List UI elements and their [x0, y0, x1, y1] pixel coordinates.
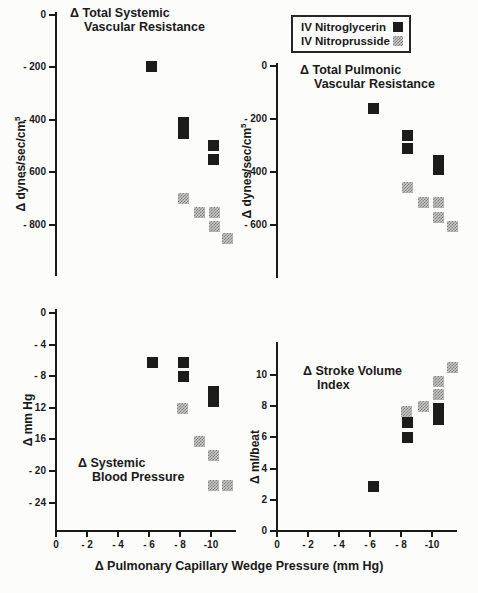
- data-point-nitroprusside: [222, 480, 233, 491]
- title-line: Δ Systemic: [78, 457, 184, 471]
- y-axis-tick: [270, 499, 276, 501]
- y-axis-label-mmhg: Δ mm Hg: [21, 394, 35, 447]
- x-axis-tick: [307, 532, 309, 537]
- x-axis-tick: [86, 532, 88, 537]
- title-line: Δ Total Systemic: [70, 7, 205, 21]
- y-tick-label: - 800: [7, 219, 46, 231]
- y-tick-label: 0: [7, 9, 46, 21]
- y-axis-tick: [49, 171, 55, 173]
- data-point-nitroprusside: [433, 197, 444, 208]
- x-axis-tick: [179, 532, 181, 537]
- x-tick-label: - 6: [134, 539, 164, 551]
- data-point-nitroprusside: [402, 182, 413, 193]
- data-point-nitroglycerin: [402, 130, 413, 141]
- y-axis-tick: [270, 65, 276, 67]
- x-axis: [276, 530, 457, 532]
- y-axis-tick: [270, 405, 276, 407]
- data-point-nitroglycerin: [147, 357, 158, 368]
- title-line: Δ Stroke Volume: [303, 365, 402, 379]
- x-tick-label: - 8: [165, 539, 195, 551]
- data-point-nitroprusside: [447, 221, 458, 232]
- data-point-nitroprusside: [222, 233, 233, 244]
- data-point-nitroglycerin: [208, 154, 219, 165]
- x-tick-label: -10: [417, 539, 447, 551]
- y-axis-tick: [49, 119, 55, 121]
- x-tick-label: - 2: [72, 539, 102, 551]
- y-tick-label: - 24: [7, 497, 46, 509]
- data-point-nitroprusside: [208, 450, 219, 461]
- x-tick-label: 0: [41, 539, 71, 551]
- y-axis: [276, 342, 278, 531]
- y-tick-label: 10: [228, 369, 267, 381]
- y-axis-label-superscript: 5: [13, 116, 22, 120]
- y-axis-label-dynes-pulmonic: Δ dynes/sec/cm5: [239, 123, 254, 218]
- panel-title-stroke-volume-index: Δ Stroke Volume Index: [303, 365, 402, 392]
- x-axis-tick: [210, 532, 212, 537]
- data-point-nitroglycerin: [368, 103, 379, 114]
- y-tick-label: 0: [7, 307, 46, 319]
- data-point-nitroprusside: [418, 197, 429, 208]
- panel-title-systemic-blood-pressure: Δ Systemic Blood Pressure: [78, 457, 184, 484]
- y-axis-tick: [49, 470, 55, 472]
- data-point-nitroglycerin: [178, 117, 189, 128]
- four-panel-scatter-figure: 0- 200- 400- 600- 8000- 200- 400- 6000- …: [0, 0, 478, 593]
- data-point-nitroprusside: [433, 212, 444, 223]
- y-axis-tick: [49, 407, 55, 409]
- y-tick-label: - 4: [7, 339, 46, 351]
- y-axis-tick: [270, 171, 276, 173]
- data-point-nitroglycerin: [146, 61, 157, 72]
- title-line: Vascular Resistance: [84, 21, 205, 35]
- data-point-nitroprusside: [433, 389, 444, 400]
- y-axis-tick: [270, 468, 276, 470]
- data-point-nitroglycerin: [402, 432, 413, 443]
- data-point-nitroprusside: [208, 480, 219, 491]
- title-line: Index: [317, 379, 402, 393]
- legend: IV Nitroglycerin IV Nitroprusside: [291, 15, 411, 53]
- x-tick-label: - 4: [324, 539, 354, 551]
- data-point-nitroprusside: [177, 403, 188, 414]
- data-point-nitroglycerin: [178, 128, 189, 139]
- data-point-nitroglycerin: [178, 357, 189, 368]
- y-axis-tick: [49, 312, 55, 314]
- data-point-nitroprusside: [194, 436, 205, 447]
- x-axis-tick: [148, 532, 150, 537]
- panel-title-total-systemic-vascular-resistance: Δ Total Systemic Vascular Resistance: [70, 7, 205, 34]
- y-tick-label: 0: [228, 60, 267, 72]
- data-point-nitroglycerin: [433, 414, 444, 425]
- y-axis-label-text: Δ dynes/sec/cm: [14, 121, 28, 212]
- y-tick-label: 2: [228, 494, 267, 506]
- gray-square-marker-icon: [393, 36, 403, 46]
- y-axis-tick: [49, 438, 55, 440]
- y-axis-label-mlbeat: Δ ml/beat: [248, 430, 262, 484]
- y-tick-label: - 8: [7, 370, 46, 382]
- y-axis-tick: [49, 502, 55, 504]
- data-point-nitroprusside: [209, 207, 220, 218]
- x-axis-tick: [55, 532, 57, 537]
- legend-label: IV Nitroprusside: [301, 35, 390, 47]
- legend-item-nitroprusside: IV Nitroprusside: [301, 34, 403, 48]
- y-axis-tick: [270, 118, 276, 120]
- y-axis-tick: [270, 374, 276, 376]
- x-tick-label: - 8: [386, 539, 416, 551]
- x-tick-label: - 4: [103, 539, 133, 551]
- x-tick-label: 0: [262, 539, 292, 551]
- x-axis: [55, 530, 236, 532]
- data-point-nitroglycerin: [208, 396, 219, 407]
- y-tick-label: - 600: [228, 219, 267, 231]
- y-axis: [55, 309, 57, 531]
- y-tick-label: - 20: [7, 465, 46, 477]
- x-axis-label: Δ Pulmonary Capillary Wedge Pressure (mm…: [0, 559, 478, 573]
- data-point-nitroglycerin: [433, 403, 444, 414]
- data-point-nitroglycerin: [402, 143, 413, 154]
- data-point-nitroprusside: [433, 376, 444, 387]
- y-axis: [55, 12, 57, 276]
- y-tick-label: 8: [228, 400, 267, 412]
- data-point-nitroglycerin: [368, 481, 379, 492]
- x-tick-label: - 2: [293, 539, 323, 551]
- title-line: Δ Total Pulmonic: [300, 64, 435, 78]
- x-axis-tick: [369, 532, 371, 537]
- y-tick-label: - 200: [7, 61, 46, 73]
- data-point-nitroglycerin: [433, 164, 444, 175]
- y-axis-tick: [49, 14, 55, 16]
- x-axis-tick: [276, 532, 278, 537]
